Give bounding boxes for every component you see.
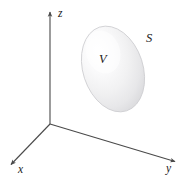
z-axis-label: z: [57, 7, 63, 19]
solid-region-group: [71, 18, 155, 120]
figure-svg: z y x V S: [0, 0, 188, 184]
x-axis-line: [11, 124, 50, 165]
x-axis-label: x: [17, 163, 24, 175]
figure-canvas: z y x V S: [0, 0, 188, 184]
y-axis-line: [50, 124, 175, 162]
y-axis-label: y: [165, 162, 172, 175]
surface-label: S: [146, 31, 153, 45]
